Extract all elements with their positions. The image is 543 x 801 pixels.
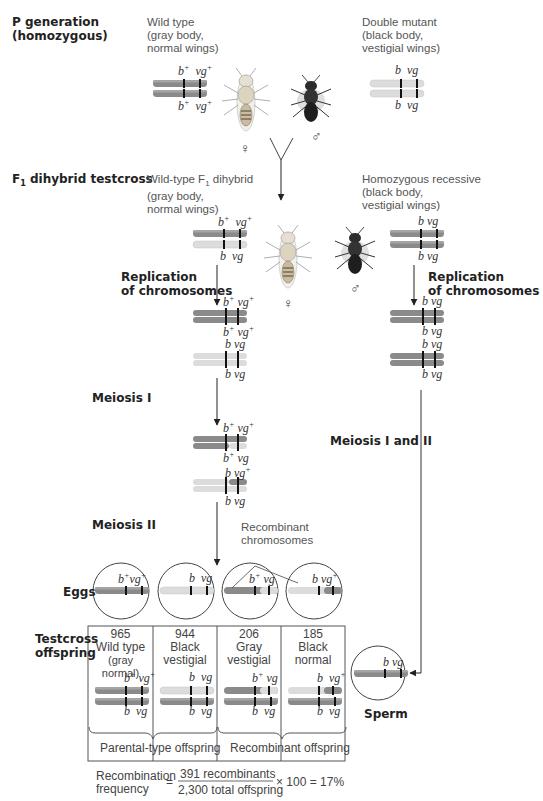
egg-allele-label: b+vg+ bbox=[118, 571, 146, 587]
female-symbol: ♀ bbox=[240, 140, 251, 156]
egg-allele-label: b vg+ bbox=[312, 571, 338, 587]
allele-label: b vg bbox=[189, 670, 212, 685]
f1-male-description: Homozygous recessive (black body, vestig… bbox=[362, 173, 481, 212]
allele-label: b+ vg+ bbox=[223, 420, 254, 436]
allele-label: b+ vg+ bbox=[178, 98, 212, 114]
allele-label: b+ vg+ bbox=[178, 63, 212, 79]
allele-label: b vg bbox=[418, 249, 438, 264]
replication-label-left: Replication of chromosomes bbox=[121, 270, 232, 298]
sperm-allele-label: b vg bbox=[383, 655, 403, 670]
offspring-cell-black-vestigial: 944Blackvestigial bbox=[153, 628, 217, 667]
p-wild-chromosome-2 bbox=[153, 89, 207, 98]
p-mutant-chromosome-2 bbox=[370, 89, 424, 98]
female-symbol: ♀ bbox=[283, 295, 294, 311]
p-wild-chromosome-1 bbox=[153, 79, 207, 88]
allele-label: b vg+ bbox=[225, 465, 251, 481]
allele-label: b+ vg+ bbox=[223, 294, 254, 310]
allele-label: b vg bbox=[418, 214, 438, 229]
allele-label: b vg bbox=[225, 337, 245, 352]
allele-label: b+ vg bbox=[252, 670, 278, 686]
formula-equals: = bbox=[166, 775, 173, 789]
egg-allele-label: b vg bbox=[189, 571, 212, 586]
parental-group-label: Parental-type offspring bbox=[100, 741, 221, 755]
offspring-cell-black-normal: 185Blacknormal bbox=[281, 628, 345, 667]
f1-label: F1 dihybrid testcross bbox=[12, 172, 153, 191]
allele-label: b vg bbox=[395, 98, 418, 113]
meiosis-1-and-2-label: Meiosis I and II bbox=[330, 434, 432, 448]
allele-label: b vg bbox=[317, 704, 340, 719]
allele-label: b vg bbox=[189, 704, 212, 719]
offspring-cell-gray-vestigial: 206Grayvestigial bbox=[217, 628, 281, 667]
meiosis-1-label: Meiosis I bbox=[92, 391, 151, 405]
allele-label: b vg bbox=[395, 63, 418, 78]
p-mutant-chromosome-1 bbox=[370, 79, 424, 88]
p-wild-description: Wild type (gray body, normal wings) bbox=[147, 16, 219, 55]
allele-label: b vg bbox=[252, 704, 275, 719]
allele-label: b vg bbox=[225, 494, 245, 509]
formula-result: × 100 = 17% bbox=[276, 775, 344, 789]
formula-denominator: 2,300 total offspring bbox=[178, 783, 283, 797]
allele-label: b vg bbox=[124, 704, 147, 719]
recombinant-chromosomes-label: Recombinant chromosomes bbox=[241, 521, 313, 547]
allele-label: b+ vg bbox=[223, 450, 249, 466]
p-mutant-description: Double mutant (black body, vestigial win… bbox=[362, 16, 440, 55]
f1-female-description: Wild-type F1 dihybrid (gray body, normal… bbox=[147, 173, 253, 216]
p-generation-label: P generation (homozygous) bbox=[12, 15, 108, 43]
allele-label: b vg bbox=[220, 249, 243, 264]
egg-allele-label: b+ vg bbox=[249, 571, 275, 587]
formula-lhs: Recombination frequency bbox=[96, 770, 176, 796]
allele-label: b vg bbox=[225, 367, 245, 382]
eggs-label: Eggs bbox=[63, 585, 96, 599]
replication-label-right: Replication of chromosomes bbox=[428, 270, 539, 298]
allele-label: b+ vg+ bbox=[124, 670, 155, 686]
recombinant-group-label: Recombinant offspring bbox=[230, 741, 350, 755]
allele-label: b vg bbox=[422, 294, 442, 309]
allele-label: b+ vg+ bbox=[218, 214, 252, 230]
meiosis-2-label: Meiosis II bbox=[92, 518, 156, 532]
male-symbol: ♂ bbox=[350, 280, 361, 296]
allele-label: b vg bbox=[422, 367, 442, 382]
male-symbol: ♂ bbox=[311, 128, 322, 144]
formula-numerator: 391 recombinants bbox=[180, 767, 275, 781]
sperm-label: Sperm bbox=[364, 707, 408, 721]
allele-label: b vg bbox=[422, 337, 442, 352]
allele-label: b vg+ bbox=[317, 670, 346, 686]
